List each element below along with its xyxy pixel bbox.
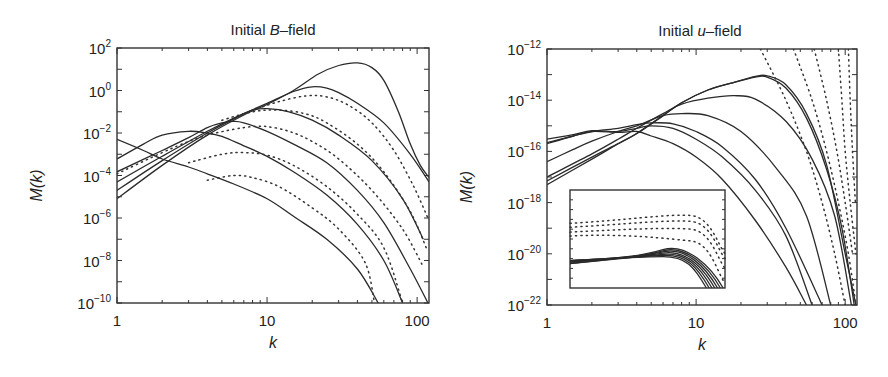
curve-dotted-2	[794, 49, 856, 305]
x-tick-label: 100	[405, 312, 430, 329]
axes-frame	[117, 48, 429, 303]
x-tick-label: 10	[259, 312, 276, 329]
curve-solid-6	[117, 63, 429, 199]
y-tick-label: 10−10	[77, 293, 111, 312]
x-tick-label: 1	[543, 314, 551, 331]
panel-b-field: Initial B–field 11010010210010−210−410−6…	[28, 21, 430, 351]
curve-dotted-1	[760, 49, 845, 305]
x-tick-label: 1	[113, 312, 121, 329]
y-tick-label: 10−20	[507, 244, 541, 263]
curve-solid-4	[547, 113, 831, 305]
figure: Initial B–field 11010010210010−210−410−6…	[0, 0, 888, 377]
y-tick-label: 10−2	[83, 123, 112, 142]
y-tick-label: 10−6	[83, 208, 112, 227]
y-tick-label: 10−16	[507, 141, 541, 160]
curve-dotted-4	[222, 110, 426, 248]
series-group	[117, 63, 429, 303]
panel-u-field: Initial u–field 11010010−1210−1410−1610−…	[458, 22, 858, 353]
y-axis-label: M(k)	[458, 171, 475, 203]
y-tick-label: 10−18	[507, 193, 541, 212]
y-tick-label: 10−12	[507, 39, 541, 58]
panel-title-u-field: Initial u–field	[658, 22, 741, 39]
x-tick-label: 100	[833, 314, 858, 331]
plot-area-u-field: 11010010−1210−1410−1610−1810−2010−22kM(k…	[458, 39, 858, 353]
inset-dotted-curve	[570, 215, 725, 254]
curve-dotted-5	[253, 96, 428, 218]
y-tick-label: 10−14	[507, 90, 541, 109]
y-tick-label: 102	[89, 38, 112, 57]
y-tick-label: 10−4	[83, 166, 112, 185]
y-tick-label: 100	[89, 81, 112, 100]
y-tick-label: 10−8	[83, 251, 112, 270]
y-axis-label: M(k)	[28, 170, 45, 202]
inset-plot	[570, 190, 725, 288]
panel-title-b-field: Initial B–field	[230, 21, 315, 38]
x-axis-label: k	[698, 336, 707, 353]
x-tick-label: 10	[688, 314, 705, 331]
plot-area-b-field: 11010010210010−210−410−610−810−10kM(k)	[28, 38, 430, 351]
curve-dotted-1	[117, 126, 423, 267]
y-tick-label: 10−22	[507, 295, 541, 314]
x-axis-label: k	[269, 334, 278, 351]
curve-solid-3	[117, 121, 428, 303]
curve-dotted-3	[207, 175, 374, 303]
curve-dotted-2	[189, 153, 403, 303]
